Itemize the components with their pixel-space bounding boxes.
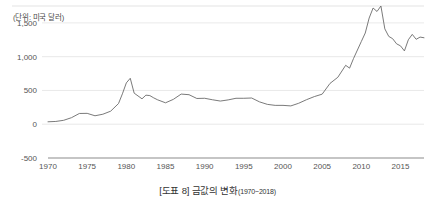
x-axis-tick-label: 2005 bbox=[313, 162, 331, 171]
x-axis-tick-label: 2000 bbox=[274, 162, 292, 171]
y-axis-tick-label: 1,000 bbox=[17, 53, 38, 62]
x-axis-tick-labels: 1970197519801985199019952000200520102015 bbox=[39, 162, 410, 171]
x-axis-tick-label: 1975 bbox=[78, 162, 96, 171]
figure-caption: [도표 8] 금값의 변화(1970~2018) bbox=[0, 180, 435, 198]
x-axis-tick-label: 1980 bbox=[117, 162, 135, 171]
y-axis-tick-label: -500 bbox=[21, 154, 38, 163]
caption-title: [도표 8] 금값의 변화 bbox=[159, 185, 238, 196]
y-axis-tick-label: 1,500 bbox=[17, 19, 38, 28]
x-axis-tick-label: 2010 bbox=[352, 162, 370, 171]
x-axis-tick-label: 1970 bbox=[39, 162, 57, 171]
x-axis-tick-label: 2015 bbox=[392, 162, 410, 171]
caption-year-range: (1970~2018) bbox=[238, 188, 276, 195]
gridlines-group bbox=[42, 23, 424, 124]
chart-plot-area: -50005001,0001,500 197019751980198519901… bbox=[0, 0, 435, 203]
y-axis-tick-labels: -50005001,0001,500 bbox=[17, 19, 38, 163]
x-axis-tick-label: 1995 bbox=[235, 162, 253, 171]
x-axis-tick-label: 1990 bbox=[196, 162, 214, 171]
y-axis-tick-label: 500 bbox=[24, 86, 38, 95]
gold-price-line-series bbox=[48, 6, 424, 122]
x-axis-tick-label: 1985 bbox=[157, 162, 175, 171]
gold-price-chart-figure: (단위: 미국 달러) -50005001,0001,500 197019751… bbox=[0, 0, 435, 203]
y-axis-tick-label: 0 bbox=[33, 120, 38, 129]
